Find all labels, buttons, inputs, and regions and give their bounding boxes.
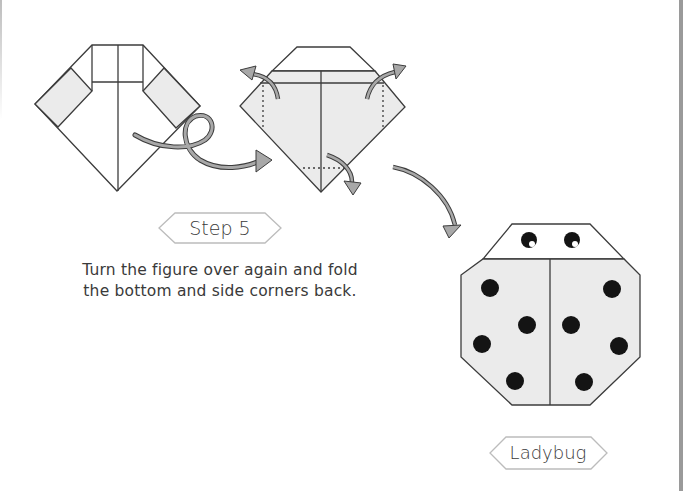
final-result-label: Ladybug: [490, 436, 606, 470]
step-instructions: Turn the figure over again and fold the …: [60, 260, 380, 302]
figure-ladybug: [461, 224, 640, 405]
eye-left-icon: [521, 232, 537, 248]
instruction-line-2: the bottom and side corners back.: [60, 281, 380, 302]
eye-right-icon: [564, 232, 580, 248]
figure-fold-before: [35, 45, 200, 191]
origami-diagram: [0, 0, 687, 491]
figure-fold-after: [240, 47, 405, 192]
curved-arrow-to-result-icon: [393, 167, 461, 238]
step-label: Step 5: [160, 212, 280, 244]
instruction-line-1: Turn the figure over again and fold: [60, 260, 380, 281]
